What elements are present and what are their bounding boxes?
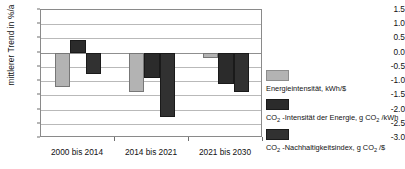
bar-series-group bbox=[41, 10, 261, 136]
plot-area bbox=[40, 9, 262, 137]
legend-item: Energieintensität, kWh/$ bbox=[266, 70, 405, 94]
bar bbox=[160, 53, 176, 117]
legend-label: Energieintensität, kWh/$ bbox=[266, 83, 405, 94]
bar bbox=[218, 53, 234, 84]
legend-item: CO2 -Nachhaltigkeitsindex, g CO2 /$ bbox=[266, 129, 405, 154]
x-axis-tick-mark bbox=[262, 137, 263, 141]
y-axis-tick-label: 0.5 bbox=[369, 32, 405, 42]
legend-swatch bbox=[266, 129, 289, 140]
bar bbox=[129, 53, 145, 93]
y-axis-tick-label: 1.5 bbox=[369, 4, 405, 14]
chart-container: mittlerer Trend in %/a 1.51.00.50.0-0.5-… bbox=[0, 0, 405, 169]
legend-swatch bbox=[266, 99, 289, 110]
y-axis-title: mittlerer Trend in %/a bbox=[6, 0, 16, 100]
bar bbox=[144, 53, 160, 79]
x-axis-tick-mark bbox=[114, 137, 115, 141]
x-axis-tick-mark bbox=[188, 137, 189, 141]
legend-label: CO2 -Nachhaltigkeitsindex, g CO2 /$ bbox=[266, 142, 405, 154]
y-axis-tick-label: 1.0 bbox=[369, 18, 405, 28]
bar bbox=[86, 53, 102, 74]
bar bbox=[55, 53, 71, 87]
legend-label: CO2 -Intensität der Energie, g CO2 /kWh bbox=[266, 112, 405, 124]
chart-legend: Energieintensität, kWh/$CO2 -Intensität … bbox=[266, 70, 405, 159]
y-axis-tick-label: 0.0 bbox=[369, 47, 405, 57]
bar bbox=[203, 53, 219, 59]
legend-item: CO2 -Intensität der Energie, g CO2 /kWh bbox=[266, 99, 405, 124]
bar bbox=[234, 53, 250, 93]
bar bbox=[70, 40, 86, 53]
x-axis-tick-label: 2014 bis 2021 bbox=[125, 147, 177, 157]
legend-swatch bbox=[266, 70, 289, 81]
x-axis-tick-label: 2021 bis 2030 bbox=[199, 147, 251, 157]
x-axis-tick-label: 2000 bis 2014 bbox=[51, 147, 103, 157]
